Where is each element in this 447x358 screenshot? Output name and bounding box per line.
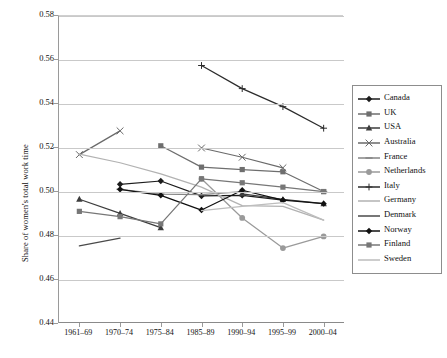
y-axis-tick-label: 0.54 bbox=[22, 97, 54, 107]
legend-item-uk[interactable]: UK bbox=[353, 105, 441, 120]
y-axis-tick-label: 0.56 bbox=[22, 53, 54, 63]
legend-marker-icon bbox=[357, 252, 381, 264]
gridline bbox=[59, 236, 344, 237]
legend-item-label: Germany bbox=[384, 194, 416, 204]
legend-item-label: France bbox=[384, 151, 407, 161]
series-line bbox=[202, 203, 324, 221]
y-axis-tick-label: 0.46 bbox=[22, 273, 54, 283]
legend-item-label: UK bbox=[384, 107, 396, 117]
x-axis-tick-mark bbox=[202, 323, 203, 327]
y-axis-tick-label: 0.58 bbox=[22, 9, 54, 19]
x-axis-tick-label: 1975–84 bbox=[146, 328, 174, 337]
gridline bbox=[59, 104, 344, 105]
legend-marker bbox=[366, 169, 372, 175]
x-axis-tick-mark bbox=[120, 323, 121, 327]
data-point bbox=[239, 85, 246, 92]
legend-marker-icon bbox=[357, 91, 381, 103]
series-denmark bbox=[79, 238, 120, 246]
legend-item-label: Finland bbox=[384, 238, 410, 248]
legend-marker-icon bbox=[357, 164, 381, 176]
legend-item-label: Canada bbox=[384, 92, 410, 102]
legend-item-label: USA bbox=[384, 121, 401, 131]
data-point bbox=[158, 221, 163, 226]
legend-item-australia[interactable]: Australia bbox=[353, 134, 441, 149]
series-norway bbox=[117, 186, 327, 213]
legend-marker bbox=[366, 183, 373, 190]
legend-marker-icon bbox=[357, 120, 381, 132]
series-line bbox=[79, 179, 323, 224]
data-point bbox=[240, 167, 245, 172]
legend-item-canada[interactable]: Canada bbox=[353, 90, 441, 105]
data-point bbox=[320, 125, 327, 132]
x-axis-tick-mark bbox=[79, 323, 80, 327]
data-point bbox=[76, 196, 82, 202]
data-point bbox=[158, 178, 164, 184]
data-point bbox=[198, 62, 205, 69]
x-axis-tick-mark bbox=[242, 323, 243, 327]
series-uk bbox=[158, 143, 326, 194]
legend-item-norway[interactable]: Norway bbox=[353, 221, 441, 236]
series-line bbox=[79, 131, 120, 155]
x-axis-tick-mark bbox=[283, 323, 284, 327]
y-axis-tick-label: 0.48 bbox=[22, 229, 54, 239]
legend-item-label: Norway bbox=[384, 224, 412, 234]
legend-item-finland[interactable]: Finland bbox=[353, 236, 441, 251]
legend-item-label: Netherlands bbox=[384, 165, 426, 175]
series-australia bbox=[76, 127, 286, 171]
legend-marker bbox=[366, 227, 372, 233]
x-axis-tick-label: 1985–89 bbox=[187, 328, 215, 337]
legend-item-germany[interactable]: Germany bbox=[353, 192, 441, 207]
y-axis-tick-label: 0.52 bbox=[22, 141, 54, 151]
legend-marker-icon bbox=[357, 237, 381, 249]
gridline bbox=[59, 280, 344, 281]
legend-item-label: Sweden bbox=[384, 253, 411, 263]
legend-marker bbox=[366, 111, 371, 116]
legend-marker-icon bbox=[357, 150, 381, 162]
data-point bbox=[239, 215, 245, 221]
x-axis-tick-label: 1970–74 bbox=[105, 328, 133, 337]
legend-marker bbox=[366, 96, 372, 102]
legend-item-label: Denmark bbox=[384, 209, 416, 219]
data-point bbox=[158, 192, 164, 198]
data-point bbox=[280, 245, 286, 251]
y-axis-tick-label: 0.50 bbox=[22, 185, 54, 195]
series-line bbox=[79, 238, 120, 246]
legend[interactable]: CanadaUKUSAAustraliaFranceNetherlandsIta… bbox=[352, 85, 442, 274]
legend-marker-icon bbox=[357, 179, 381, 191]
legend-marker-icon bbox=[357, 106, 381, 118]
x-axis-tick-label: 1995–99 bbox=[268, 328, 296, 337]
data-point bbox=[280, 185, 285, 190]
data-point bbox=[198, 193, 204, 199]
legend-item-sweden[interactable]: Sweden bbox=[353, 251, 441, 266]
legend-marker-icon bbox=[357, 208, 381, 220]
legend-item-denmark[interactable]: Denmark bbox=[353, 207, 441, 222]
x-axis-tick-label: 2000–04 bbox=[309, 328, 337, 337]
legend-item-label: Italy bbox=[384, 180, 400, 190]
y-axis-tick-mark bbox=[53, 323, 58, 324]
series-sweden bbox=[202, 203, 324, 221]
series-layer bbox=[59, 16, 344, 324]
data-point bbox=[117, 127, 124, 134]
legend-item-france[interactable]: France bbox=[353, 148, 441, 163]
data-point bbox=[199, 165, 204, 170]
y-axis-tick-label: 0.44 bbox=[22, 317, 54, 327]
legend-item-usa[interactable]: USA bbox=[353, 119, 441, 134]
legend-marker bbox=[366, 243, 371, 248]
series-italy bbox=[198, 62, 327, 132]
legend-item-italy[interactable]: Italy bbox=[353, 178, 441, 193]
x-axis-tick-mark bbox=[161, 323, 162, 327]
x-axis-tick-label: 1961–69 bbox=[64, 328, 92, 337]
chart-figure: Share of women's total work time 0.440.4… bbox=[0, 0, 447, 358]
legend-marker-icon bbox=[357, 223, 381, 235]
data-point bbox=[199, 176, 204, 181]
x-axis-tick-mark bbox=[324, 323, 325, 327]
data-point bbox=[77, 209, 82, 214]
series-line bbox=[202, 66, 324, 129]
x-axis-tick-label: 1990–94 bbox=[227, 328, 255, 337]
series-finland bbox=[77, 176, 326, 226]
gridline bbox=[59, 192, 344, 193]
plot-area bbox=[58, 15, 343, 323]
legend-item-netherlands[interactable]: Netherlands bbox=[353, 163, 441, 178]
legend-marker-icon bbox=[357, 193, 381, 205]
legend-item-label: Australia bbox=[384, 136, 416, 146]
